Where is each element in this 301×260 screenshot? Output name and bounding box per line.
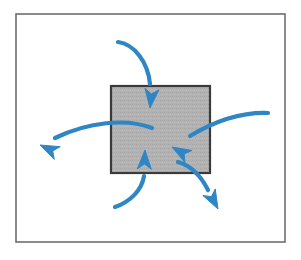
diagram-canvas — [0, 0, 301, 260]
figure-container: System boundary with inward and outward … — [0, 0, 301, 260]
system-box — [111, 86, 210, 173]
